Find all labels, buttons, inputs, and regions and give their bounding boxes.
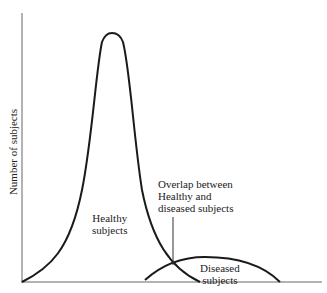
diseased-label-line: Diseased — [200, 262, 240, 274]
chart-plot — [0, 0, 327, 293]
overlap-label-line: Healthy and — [158, 190, 233, 202]
overlap-label: Overlap between Healthy and diseased sub… — [158, 178, 233, 214]
healthy-subjects-label: Healthy subjects — [92, 212, 127, 236]
healthy-label-line: subjects — [92, 224, 127, 236]
overlap-label-line: Overlap between — [158, 178, 233, 190]
healthy-label-line: Healthy — [92, 212, 127, 224]
diseased-label-line: subjects — [200, 274, 240, 286]
diseased-subjects-label: Diseased subjects — [200, 262, 240, 286]
y-axis-label: Number of subjects — [7, 109, 19, 195]
overlap-label-line: diseased subjects — [158, 202, 233, 214]
distribution-chart: Number of subjects Healthy subjects Over… — [0, 0, 327, 293]
